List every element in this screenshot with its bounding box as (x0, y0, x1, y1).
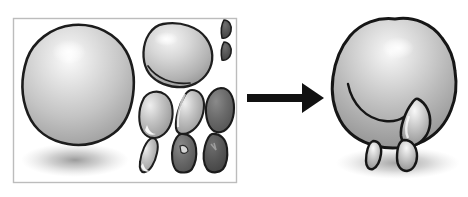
illustration-canvas: Character part assembly diagram Disassem… (0, 0, 468, 197)
piece-foot-left (172, 134, 196, 173)
head-mass-highlight (154, 32, 178, 46)
thigh-oval-outline (206, 88, 234, 132)
upper-arm-outline (139, 92, 172, 138)
foot-right-outline (204, 134, 228, 172)
creature-highlight (382, 37, 414, 59)
piece-foot-right (204, 134, 228, 172)
foot-left-toe (180, 145, 188, 153)
piece-claw-second (221, 42, 231, 60)
claw-second-outline (221, 42, 231, 60)
arrow-shaft (247, 94, 305, 102)
claw-top-outline (221, 20, 231, 38)
body-mass-highlight (52, 40, 86, 64)
parts-sheet-panel (14, 19, 237, 183)
body-mass-shadow (21, 143, 129, 177)
assembled-creature-panel (332, 18, 460, 179)
illustration-svg (0, 0, 468, 197)
piece-claw-top (221, 20, 231, 38)
piece-upper-arm (139, 92, 172, 138)
piece-thigh-oval (206, 88, 234, 132)
piece-head-mass (143, 23, 212, 87)
creature-leg-right (397, 140, 417, 171)
head-mass-outline (143, 23, 212, 87)
piece-body-mass (23, 25, 134, 145)
